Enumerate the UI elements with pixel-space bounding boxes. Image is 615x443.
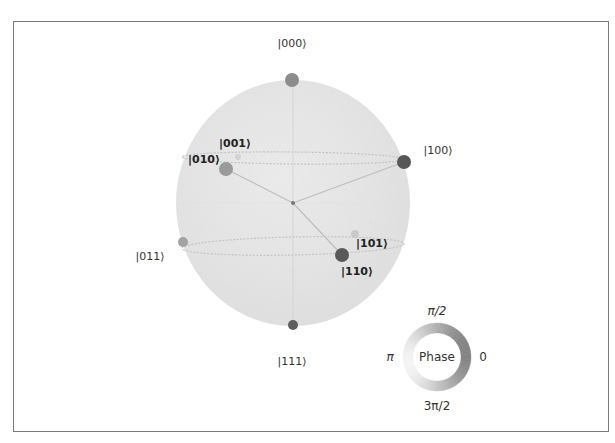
state-label: |100⟩ bbox=[424, 144, 453, 157]
state-point bbox=[219, 162, 233, 176]
state-point bbox=[178, 237, 188, 247]
state-point bbox=[397, 155, 411, 169]
state-label: |000⟩ bbox=[278, 37, 307, 50]
phase-tick-pi: π bbox=[386, 350, 393, 364]
phase-tick-zero: 0 bbox=[479, 350, 487, 364]
state-label: |111⟩ bbox=[278, 355, 307, 368]
state-label: |101⟩ bbox=[356, 237, 388, 250]
state-label: |011⟩ bbox=[136, 250, 165, 263]
phase-tick-pi-half: π/2 bbox=[428, 304, 447, 318]
qsphere-plot bbox=[0, 0, 615, 443]
phase-tick-three-pi-half: 3π/2 bbox=[424, 399, 451, 413]
state-label: |001⟩ bbox=[219, 137, 251, 150]
state-label: |110⟩ bbox=[341, 265, 373, 278]
sphere-center-dot bbox=[291, 201, 295, 205]
state-label: |010⟩ bbox=[188, 153, 220, 166]
state-point bbox=[285, 73, 299, 87]
phase-legend-title: Phase bbox=[419, 350, 455, 364]
state-point bbox=[235, 154, 241, 160]
state-point bbox=[288, 320, 298, 330]
state-point bbox=[335, 248, 349, 262]
